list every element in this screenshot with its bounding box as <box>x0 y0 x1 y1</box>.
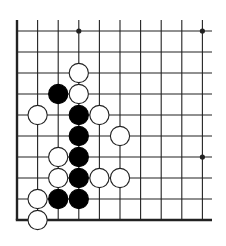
black-stone <box>69 189 88 208</box>
black-stone <box>69 147 88 166</box>
white-stone <box>28 210 47 229</box>
star-point <box>200 28 205 33</box>
black-stone <box>69 105 88 124</box>
white-stone <box>90 105 109 124</box>
star-point <box>200 154 205 159</box>
white-stone <box>28 105 47 124</box>
white-stone <box>69 84 88 103</box>
white-stone <box>69 63 88 82</box>
black-stone <box>69 168 88 187</box>
white-stone <box>49 168 68 187</box>
black-stone <box>49 84 68 103</box>
go-board <box>0 0 226 246</box>
white-stone <box>90 168 109 187</box>
black-stone <box>49 189 68 208</box>
star-point <box>76 28 81 33</box>
black-stone <box>69 126 88 145</box>
white-stone <box>49 147 68 166</box>
white-stone <box>110 126 129 145</box>
white-stone <box>28 189 47 208</box>
white-stone <box>110 168 129 187</box>
